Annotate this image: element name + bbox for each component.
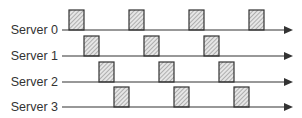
server-row-2: Server 2	[11, 62, 293, 89]
server-label: Server 0	[11, 23, 58, 37]
server-timeline-diagram: Server 0Server 1Server 2Server 3	[0, 0, 302, 118]
server-label: Server 1	[11, 49, 58, 63]
time-slot-box	[204, 36, 219, 56]
time-slot-box	[249, 10, 264, 30]
arrowhead-icon	[284, 26, 293, 34]
arrowhead-icon	[284, 52, 293, 60]
time-slot-box	[129, 10, 144, 30]
arrowhead-icon	[284, 103, 293, 111]
time-slot-box	[159, 62, 174, 82]
server-label: Server 2	[11, 75, 58, 89]
time-slot-box	[84, 36, 99, 56]
time-slot-box	[174, 87, 189, 107]
server-row-3: Server 3	[11, 87, 293, 114]
time-slot-box	[144, 36, 159, 56]
time-slot-box	[69, 10, 84, 30]
time-slot-box	[99, 62, 114, 82]
time-slot-box	[189, 10, 204, 30]
time-slot-box	[219, 62, 234, 82]
time-slot-box	[234, 87, 249, 107]
time-slot-box	[114, 87, 129, 107]
server-label: Server 3	[11, 100, 58, 114]
arrowhead-icon	[284, 78, 293, 86]
server-row-0: Server 0	[11, 10, 293, 37]
server-row-1: Server 1	[11, 36, 293, 63]
